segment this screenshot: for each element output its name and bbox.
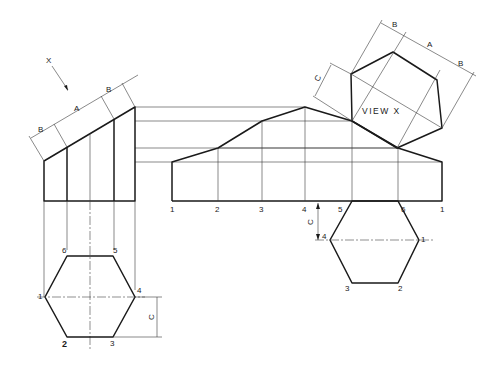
base-hexagon [315, 201, 435, 283]
dev-point-4: 4 [302, 205, 307, 214]
dim-label-b-right: B [106, 85, 111, 94]
view-x-auxiliary [313, 20, 476, 148]
dev-point-3: 3 [259, 205, 264, 214]
orthographic-drawing: B A B X 1 2 3 4 5 6 C 1 2 3 4 5 6 1 [0, 0, 502, 367]
dim-label-c-viewx: C [313, 73, 324, 83]
view-x-title: VIEW X [362, 106, 401, 116]
base-point-1: 1 [421, 235, 426, 244]
dev-point-2: 2 [215, 205, 220, 214]
plan-point-1: 1 [38, 292, 43, 301]
plan-point-4: 4 [137, 286, 142, 295]
base-point-2: 2 [398, 284, 403, 293]
plan-point-6: 6 [62, 246, 67, 255]
base-point-3: 3 [345, 284, 350, 293]
dim-label-b-left: B [38, 125, 43, 134]
view-arrow-icon [52, 66, 68, 91]
dev-point-5: 5 [338, 205, 343, 214]
front-elevation [29, 75, 138, 350]
dim-label-b-viewx-right: B [458, 59, 463, 68]
plan-view [37, 256, 162, 337]
base-point-4: 4 [322, 232, 327, 241]
dev-point-1: 1 [170, 205, 175, 214]
dim-label-c-base: C [306, 219, 315, 225]
dev-point-1-end: 1 [440, 205, 445, 214]
plan-point-3: 3 [110, 339, 115, 348]
plan-point-2: 2 [62, 339, 67, 349]
plan-point-5: 5 [113, 246, 118, 255]
view-arrow-label: X [46, 56, 52, 65]
dim-label-a-left: A [74, 104, 80, 113]
dim-label-c-plan: C [147, 314, 156, 320]
dim-label-a-viewx: A [427, 40, 433, 49]
dim-label-b-viewx-left: B [392, 20, 397, 29]
